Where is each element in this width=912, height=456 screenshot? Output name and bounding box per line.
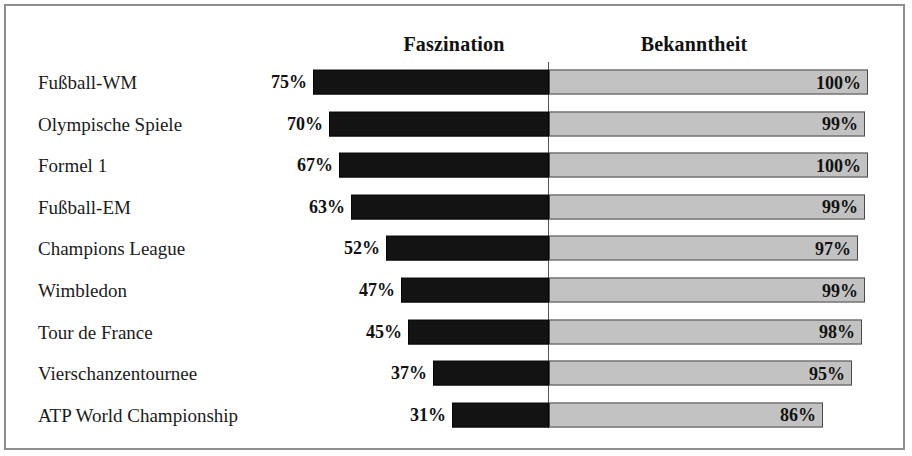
bekanntheit-bar: 86% [549, 402, 823, 427]
category-label: Formel 1 [38, 155, 107, 176]
chart-row: Vierschanzentournee37%95% [0, 358, 912, 388]
faszination-bar [313, 70, 549, 95]
bekanntheit-bar: 99% [549, 194, 865, 219]
faszination-value: 67% [263, 155, 333, 175]
faszination-bar [351, 194, 549, 219]
bekanntheit-value: 97% [815, 238, 851, 258]
faszination-value: 63% [275, 197, 345, 217]
bekanntheit-value: 95% [809, 363, 845, 383]
bekanntheit-bar: 95% [549, 361, 852, 386]
bekanntheit-bar: 98% [549, 319, 862, 344]
faszination-bar [401, 278, 549, 303]
category-label: ATP World Championship [38, 404, 238, 425]
faszination-bar [329, 111, 549, 136]
bekanntheit-bar: 97% [549, 236, 858, 261]
faszination-value: 31% [376, 405, 446, 425]
chart-row: ATP World Championship31%86% [0, 400, 912, 430]
faszination-bar [452, 402, 549, 427]
bekanntheit-value: 99% [822, 197, 858, 217]
bekanntheit-value: 100% [816, 72, 861, 92]
category-label: Tour de France [38, 321, 153, 342]
chart-row: Champions League52%97% [0, 233, 912, 263]
bekanntheit-value: 99% [822, 114, 858, 134]
bekanntheit-bar: 99% [549, 111, 865, 136]
bekanntheit-bar: 100% [549, 70, 868, 95]
faszination-bar [339, 153, 549, 178]
bekanntheit-value: 99% [822, 280, 858, 300]
chart-row: Tour de France45%98% [0, 317, 912, 347]
bekanntheit-value: 100% [816, 155, 861, 175]
bekanntheit-bar: 99% [549, 278, 865, 303]
faszination-bar [386, 236, 549, 261]
faszination-value: 70% [253, 114, 323, 134]
category-label: Fußball-EM [38, 196, 131, 217]
category-label: Olympische Spiele [38, 113, 182, 134]
faszination-value: 75% [237, 72, 307, 92]
bekanntheit-value: 98% [819, 322, 855, 342]
bekanntheit-bar: 100% [549, 153, 868, 178]
category-label: Fußball-WM [38, 72, 137, 93]
chart-rows: Fußball-WM75%100%Olympische Spiele70%99%… [0, 0, 912, 456]
category-label: Wimbledon [38, 280, 127, 301]
category-label: Champions League [38, 238, 185, 259]
faszination-bar [433, 361, 549, 386]
bekanntheit-value: 86% [780, 405, 816, 425]
chart-row: Formel 167%100% [0, 150, 912, 180]
category-label: Vierschanzentournee [38, 363, 197, 384]
faszination-value: 45% [332, 322, 402, 342]
chart-row: Wimbledon47%99% [0, 275, 912, 305]
faszination-value: 37% [357, 363, 427, 383]
faszination-value: 52% [310, 238, 380, 258]
chart-row: Fußball-WM75%100% [0, 67, 912, 97]
faszination-bar [408, 319, 549, 344]
chart-row: Fußball-EM63%99% [0, 192, 912, 222]
chart-row: Olympische Spiele70%99% [0, 109, 912, 139]
faszination-value: 47% [325, 280, 395, 300]
